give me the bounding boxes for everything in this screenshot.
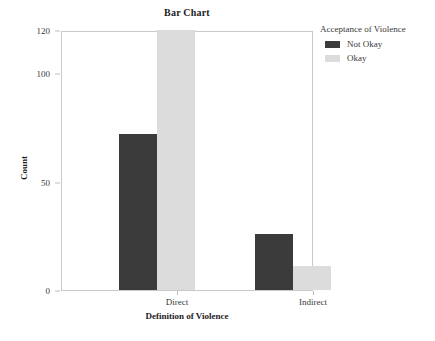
y-tick-label-0: 0	[0, 286, 50, 296]
legend-swatch-not-okay	[325, 41, 340, 48]
x-tick-label-direct: Direct	[132, 297, 222, 307]
legend-label-okay: Okay	[347, 53, 367, 63]
bar-direct-okay	[157, 30, 195, 290]
bar-chart-figure: Bar Chart Count 050100120 DirectIndirect…	[0, 0, 435, 341]
legend: Acceptance of Violence Not OkayOkay	[320, 24, 435, 67]
y-tick-mark-100	[55, 74, 60, 75]
y-tick-mark-120	[55, 31, 60, 32]
chart-title: Bar Chart	[61, 7, 313, 18]
bar-indirect-not-okay	[255, 234, 293, 290]
plot-area	[61, 31, 313, 291]
x-tick-mark-indirect	[313, 291, 314, 295]
y-tick-mark-0	[55, 291, 60, 292]
y-tick-label-100: 100	[0, 69, 50, 79]
x-tick-label-indirect: Indirect	[268, 297, 358, 307]
bar-direct-not-okay	[119, 134, 157, 290]
legend-item-okay: Okay	[320, 53, 435, 63]
x-axis-label: Definition of Violence	[61, 311, 313, 321]
y-axis-label: Count	[19, 138, 29, 198]
bars-layer	[62, 32, 312, 290]
legend-swatch-okay	[325, 55, 340, 62]
y-tick-label-50: 50	[0, 178, 50, 188]
bar-indirect-okay	[293, 266, 331, 290]
legend-title: Acceptance of Violence	[320, 24, 435, 34]
legend-item-not-okay: Not Okay	[320, 39, 435, 49]
y-tick-label-120: 120	[0, 26, 50, 36]
y-tick-mark-50	[55, 182, 60, 183]
x-tick-mark-direct	[177, 291, 178, 295]
legend-label-not-okay: Not Okay	[347, 39, 382, 49]
